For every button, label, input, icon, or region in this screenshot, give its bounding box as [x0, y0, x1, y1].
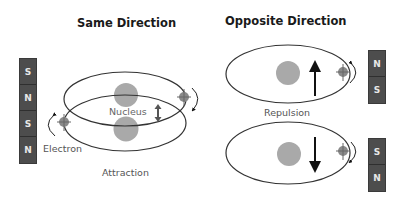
electron-icon: [336, 63, 356, 83]
right-top-orbit: [226, 45, 356, 103]
repulsion-caption: Repulsion: [264, 107, 310, 118]
nucleus: [277, 142, 301, 166]
electron-label: Electron: [43, 143, 82, 154]
lower-nucleus: [114, 117, 139, 142]
orbit-diagram: [0, 0, 407, 201]
nucleus-label: Nucleus: [109, 106, 147, 117]
electron-icon-right: [177, 88, 198, 110]
right-bottom-orbit: [226, 122, 356, 184]
attraction-caption: Attraction: [102, 167, 149, 178]
electron-icon: [336, 142, 356, 162]
nucleus: [276, 61, 300, 85]
double-arrow-icon: [155, 104, 162, 122]
